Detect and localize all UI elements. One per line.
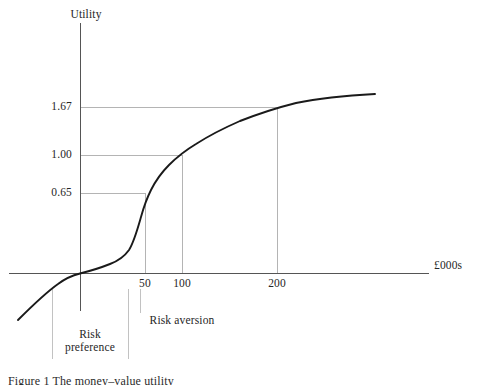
x-tick-label-50: 50 bbox=[131, 277, 159, 290]
risk-preference-label: Risk preference bbox=[55, 328, 125, 354]
x-axis-title: £000s bbox=[434, 259, 462, 272]
gridline-group bbox=[81, 108, 278, 274]
risk-preference-label-line1: Risk bbox=[55, 328, 125, 341]
y-tick-label-100: 1.00 bbox=[40, 148, 72, 161]
y-tick-label-167: 1.67 bbox=[40, 100, 72, 113]
axis-group bbox=[9, 23, 429, 311]
y-axis-title: Utility bbox=[56, 8, 116, 21]
figure-caption: Figure 1 The money–value utility bbox=[8, 375, 428, 385]
risk-preference-label-line2: preference bbox=[55, 341, 125, 354]
risk-aversion-label: Risk aversion bbox=[139, 314, 225, 327]
y-tick-label-065: 0.65 bbox=[40, 186, 72, 199]
utility-curve-figure: Utility £000s 50 100 200 1.67 1.00 0.65 … bbox=[0, 0, 480, 385]
x-tick-label-100: 100 bbox=[166, 277, 198, 290]
x-tick-label-200: 200 bbox=[261, 277, 293, 290]
